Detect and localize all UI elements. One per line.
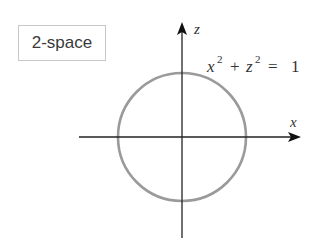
equation-var-x: x bbox=[206, 57, 215, 76]
circle-equation: x 2 + z 2 = 1 bbox=[206, 53, 300, 76]
equation-var-z: z bbox=[245, 57, 253, 76]
equation-exp-1: 2 bbox=[217, 53, 223, 65]
z-axis-label: z bbox=[193, 21, 200, 37]
equation-rhs: 1 bbox=[291, 57, 300, 76]
equation-exp-2: 2 bbox=[255, 53, 261, 65]
x-axis-label: x bbox=[289, 114, 297, 130]
diagram-canvas: z x x 2 + z 2 = 1 bbox=[0, 0, 329, 250]
equation-equals: = bbox=[268, 57, 278, 76]
equation-plus: + bbox=[230, 57, 240, 76]
